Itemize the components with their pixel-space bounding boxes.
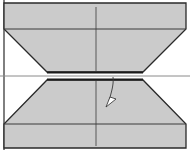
folding-diagram: [0, 0, 190, 152]
